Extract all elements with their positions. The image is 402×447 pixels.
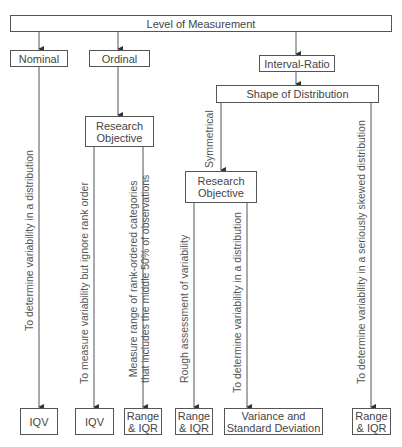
ordinal-box: Ordinal <box>89 50 150 67</box>
determine-variability-edge-label: To determine variability in a distributi… <box>231 212 243 393</box>
ordinal-objective-line2: Objective <box>97 132 143 144</box>
outcome-line1: Range <box>178 410 210 422</box>
ordinal-label: Ordinal <box>102 53 137 65</box>
outcome-line1: Range <box>355 410 387 422</box>
interval-ratio-label: Interval-Ratio <box>264 58 329 70</box>
ordinal-range-edge-label: Measure range of rank-ordered categories… <box>127 175 151 383</box>
interval-objective-line2: Objective <box>198 187 244 199</box>
outcome-ordinal-range-iqr: Range & IQR <box>124 408 162 435</box>
outcome-line2: & IQR <box>357 422 387 434</box>
root-label: Level of Measurement <box>147 18 256 30</box>
nominal-box: Nominal <box>10 50 68 67</box>
ordinal-range-line2: that includes the middle 50% of observat… <box>139 175 151 383</box>
nominal-label: Nominal <box>19 53 59 65</box>
shape-of-distribution-box: Shape of Distribution <box>216 85 379 103</box>
interval-objective-line1: Research <box>197 175 244 187</box>
interval-research-objective-box: Research Objective <box>185 171 257 203</box>
ordinal-research-objective-box: Research Objective <box>85 116 154 147</box>
ordinal-ignore-edge-label: To measure variability but ignore rank o… <box>78 182 90 384</box>
outcome-symmetric-range-iqr: Range & IQR <box>175 408 213 435</box>
outcome-nominal-iqv: IQV <box>20 408 58 435</box>
outcome-line1: IQV <box>30 416 49 428</box>
ordinal-range-line1: Measure range of rank-ordered categories <box>127 175 139 383</box>
skewed-edge-label: To determine variability in a seriously … <box>355 120 367 384</box>
outcome-line2: & IQR <box>179 422 209 434</box>
connector-lines <box>0 0 402 447</box>
nominal-edge-label: To determine variability in a distributi… <box>23 150 35 331</box>
level-of-measurement-box: Level of Measurement <box>10 15 392 32</box>
symmetrical-label: Symmetrical <box>203 110 215 168</box>
outcome-line2: Standard Deviation <box>227 422 321 434</box>
rough-assessment-edge-label: Rough assessment of variability <box>178 235 190 383</box>
outcome-ordinal-iqv: IQV <box>75 408 114 435</box>
shape-label: Shape of Distribution <box>246 88 348 100</box>
outcome-line2: & IQR <box>128 422 158 434</box>
outcome-skewed-range-iqr: Range & IQR <box>352 408 391 435</box>
interval-ratio-box: Interval-Ratio <box>259 55 335 72</box>
outcome-variance-std-dev: Variance and Standard Deviation <box>224 408 323 435</box>
outcome-line1: IQV <box>85 416 104 428</box>
outcome-line1: Variance and <box>241 410 305 422</box>
ordinal-objective-line1: Research <box>96 120 143 132</box>
outcome-line1: Range <box>127 410 159 422</box>
